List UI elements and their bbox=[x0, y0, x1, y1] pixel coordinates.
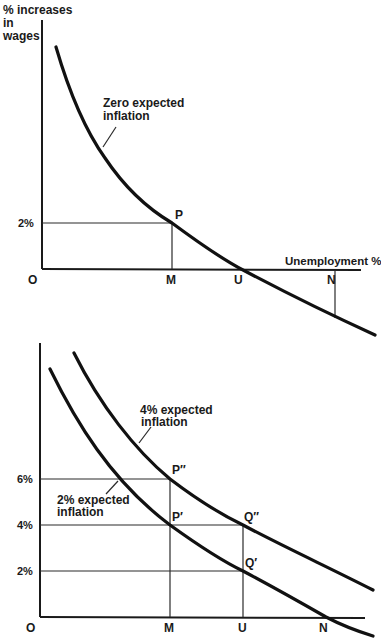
phillips-curve-diagram: % increases in wages Unemployment % 2% O… bbox=[0, 0, 381, 641]
bottom-x-label-N: N bbox=[319, 621, 328, 635]
top-origin-label: O bbox=[28, 273, 37, 287]
top-x-axis bbox=[42, 269, 361, 270]
bottom-x-label-M: M bbox=[164, 621, 174, 635]
top-x-label-U: U bbox=[234, 273, 243, 287]
top-curve-label-line1: Zero expected bbox=[103, 96, 184, 110]
bottom-origin-label: O bbox=[26, 621, 35, 635]
bottom-tick-4pct: 4% bbox=[17, 519, 33, 531]
top-tick-2pct: 2% bbox=[18, 217, 34, 229]
bottom-chart: 6% 4% 2% O M U N P″ P′ Q″ Q′ 4% expected… bbox=[17, 343, 373, 636]
bottom-x-label-U: U bbox=[238, 621, 247, 635]
top-curve-leader-line bbox=[103, 127, 116, 147]
bottom-x-axis bbox=[40, 617, 365, 618]
four-pct-label-line2: inflation bbox=[141, 415, 188, 429]
bottom-tick-2pct: 2% bbox=[17, 565, 33, 577]
top-y-axis-label-line1: % increases bbox=[3, 3, 73, 17]
four-pct-leader-line bbox=[139, 427, 151, 443]
top-y-axis-label-line2: in bbox=[3, 16, 14, 30]
top-x-label-M: M bbox=[166, 273, 176, 287]
bottom-point-P-double-prime: P″ bbox=[172, 463, 186, 477]
top-point-P: P bbox=[175, 208, 183, 222]
top-x-label-N: N bbox=[327, 273, 336, 287]
zero-expected-inflation-curve bbox=[56, 47, 375, 335]
bottom-point-Q-double-prime: Q″ bbox=[244, 510, 259, 524]
bottom-point-P-prime: P′ bbox=[172, 510, 183, 524]
bottom-tick-6pct: 6% bbox=[17, 473, 33, 485]
two-pct-label-line2: inflation bbox=[57, 505, 104, 519]
top-chart: % increases in wages Unemployment % 2% O… bbox=[2, 3, 381, 335]
top-x-axis-label: Unemployment % bbox=[285, 255, 381, 267]
bottom-point-Q-prime: Q′ bbox=[245, 556, 257, 570]
top-curve-label-line2: inflation bbox=[103, 109, 150, 123]
top-y-axis-label-line3: wages bbox=[2, 29, 40, 43]
four-pct-expected-inflation-curve bbox=[74, 353, 373, 590]
